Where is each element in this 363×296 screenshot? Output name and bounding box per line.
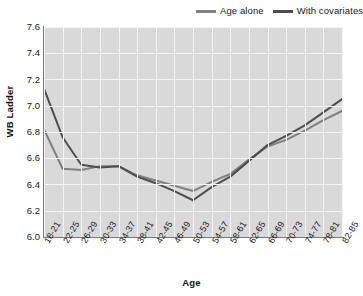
line-swatch-icon: [196, 10, 216, 13]
y-axis-tick-label: 7.6: [12, 22, 40, 32]
gridline-vertical: [174, 27, 175, 237]
gridline-vertical: [342, 27, 343, 237]
x-axis-tick-labels: 18-2122-2526-2930-3334-3738-4142-4546-49…: [44, 237, 343, 277]
y-axis-tick-label: 6.8: [12, 127, 40, 137]
y-axis-tick-label: 7.2: [12, 75, 40, 85]
legend-item-with-covariates[interactable]: With covariates: [273, 6, 363, 16]
y-axis-tick-label: 6.0: [12, 232, 40, 242]
gridline-vertical: [212, 27, 213, 237]
y-axis-tick-labels: 7.67.47.27.06.86.66.46.26.0: [12, 27, 40, 237]
legend-label-age-alone: Age alone: [220, 6, 264, 16]
gridline-vertical: [230, 27, 231, 237]
gridline-vertical: [63, 27, 64, 237]
gridline-vertical: [81, 27, 82, 237]
gridline-vertical: [100, 27, 101, 237]
plot-area: [44, 27, 343, 237]
gridline-vertical: [119, 27, 120, 237]
gridline-vertical: [323, 27, 324, 237]
gridline-vertical: [193, 27, 194, 237]
y-axis-tick-label: 6.4: [12, 180, 40, 190]
gridline-vertical: [44, 27, 45, 237]
legend-label-with-covariates: With covariates: [297, 6, 363, 16]
gridline-vertical: [305, 27, 306, 237]
y-axis-tick-label: 6.6: [12, 153, 40, 163]
gridline-vertical: [286, 27, 287, 237]
y-axis-tick-label: 7.0: [12, 101, 40, 111]
chart-legend: Age alone With covariates: [196, 4, 363, 18]
gridline-vertical: [156, 27, 157, 237]
y-axis-line: [43, 26, 44, 238]
gridline-vertical: [137, 27, 138, 237]
gridline-vertical: [249, 27, 250, 237]
gridline-vertical: [268, 27, 269, 237]
x-axis-title: Age: [0, 277, 361, 288]
legend-item-age-alone[interactable]: Age alone: [196, 6, 264, 16]
x-axis-tick-label: 82-85: [340, 220, 360, 245]
y-axis-tick-label: 6.2: [12, 206, 40, 216]
line-swatch-icon: [273, 10, 293, 13]
y-axis-tick-label: 7.4: [12, 48, 40, 58]
